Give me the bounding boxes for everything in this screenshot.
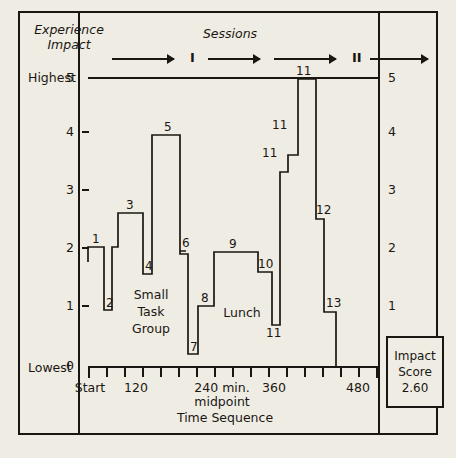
- point-label-5: 5: [164, 120, 172, 134]
- x-axis-title: Time Sequence: [150, 410, 300, 425]
- y-tick-label-right-5: 5: [388, 70, 404, 85]
- x-tick-mark: [322, 368, 324, 377]
- x-tick-mark: [304, 368, 306, 377]
- y-tick-label-4: 4: [58, 124, 74, 139]
- x-tick-mark: [358, 368, 360, 377]
- point-label-10: 10: [258, 257, 273, 271]
- point-label-11d: 11: [296, 64, 311, 78]
- y-axis-title: Experience Impact: [26, 22, 112, 52]
- plot-left-rule: [78, 13, 80, 435]
- x-tick-mark: [196, 368, 198, 377]
- impact-score-value: 2.60: [402, 380, 429, 396]
- x-tick-mark: [142, 368, 144, 377]
- y-tick-mark-2: [82, 247, 89, 249]
- x-tick-mark: [88, 366, 90, 378]
- point-label-2: 2: [106, 296, 114, 310]
- sessions-arrow-row: I II: [110, 50, 370, 68]
- session-1-label: I: [190, 50, 195, 65]
- point-label-11a: 11: [266, 326, 281, 340]
- x-tick-label-start: Start: [66, 380, 114, 395]
- x-tick-mark: [268, 368, 270, 377]
- x-tick-mark: [340, 368, 342, 377]
- y-tick-mark-3: [82, 189, 89, 191]
- annotation-small-task-group: Small Task Group: [120, 286, 182, 337]
- y-tick-label-1: 1: [58, 298, 74, 313]
- point-label-7: 7: [190, 340, 198, 354]
- y-axis-title-line1: Experience: [26, 22, 112, 37]
- annotation-stg-line1: Small: [120, 286, 182, 303]
- impact-score-box: Impact Score 2.60: [386, 336, 444, 408]
- arrow-right-icon-3: [274, 58, 336, 60]
- x-tick-label-480: 480: [340, 380, 376, 395]
- y-tick-label-right-3: 3: [388, 182, 404, 197]
- x-tick-mark: [286, 368, 288, 377]
- x-tick-mark: [232, 368, 234, 377]
- x-tick-label-360: 360: [256, 380, 292, 395]
- arrow-right-icon-4: [370, 58, 428, 60]
- point-label-11c: 11: [272, 118, 287, 132]
- x-tick-mark: [160, 368, 162, 377]
- impact-score-title-line1: Impact: [394, 348, 436, 364]
- y-tick-label-5: 5: [58, 70, 74, 85]
- x-tick-mark: [178, 368, 180, 377]
- point-label-4: 4: [145, 259, 153, 273]
- point-label-11b: 11: [262, 146, 277, 160]
- annotation-stg-line2: Task: [120, 303, 182, 320]
- y-tick-mark-1: [82, 305, 89, 307]
- point-label-13: 13: [326, 296, 341, 310]
- y-tick-label-right-2: 2: [388, 240, 404, 255]
- y-tick-label-2: 2: [58, 240, 74, 255]
- point-label-6: 6: [182, 236, 190, 250]
- y-tick-label-right-1: 1: [388, 298, 404, 313]
- x-tick-label-120: 120: [118, 380, 154, 395]
- impact-score-title-line2: Score: [398, 364, 432, 380]
- session-2-label: II: [352, 50, 362, 65]
- y-tick-label-3: 3: [58, 182, 74, 197]
- point-label-9: 9: [229, 237, 237, 251]
- x-tick-mark: [214, 368, 216, 377]
- point-label-8: 8: [201, 291, 209, 305]
- figure-root: Experience Impact Sessions I II Highest …: [0, 0, 456, 458]
- sessions-title: Sessions: [140, 26, 320, 41]
- x-tick-sub-midpoint: midpoint: [185, 394, 259, 409]
- plot-right-rule: [378, 13, 380, 435]
- figure-outer-border: [18, 11, 438, 435]
- arrow-right-icon-1: [112, 58, 174, 60]
- gridline-top-value-5: [88, 77, 378, 79]
- y-axis-title-line2: Impact: [26, 37, 112, 52]
- x-tick-mark: [124, 368, 126, 377]
- x-tick-mark: [250, 368, 252, 377]
- y-tick-label-right-4: 4: [388, 124, 404, 139]
- y-tick-label-0: 0: [58, 358, 74, 373]
- arrow-right-icon-2: [208, 58, 260, 60]
- point-label-12: 12: [316, 203, 331, 217]
- point-label-3: 3: [126, 198, 134, 212]
- x-tick-label-240: 240 min.: [185, 380, 259, 395]
- x-tick-mark: [106, 368, 108, 377]
- y-tick-mark-4: [82, 131, 89, 133]
- point-label-1: 1: [92, 232, 100, 246]
- x-tick-mark: [376, 366, 378, 378]
- annotation-stg-line3: Group: [120, 320, 182, 337]
- annotation-lunch: Lunch: [212, 304, 272, 321]
